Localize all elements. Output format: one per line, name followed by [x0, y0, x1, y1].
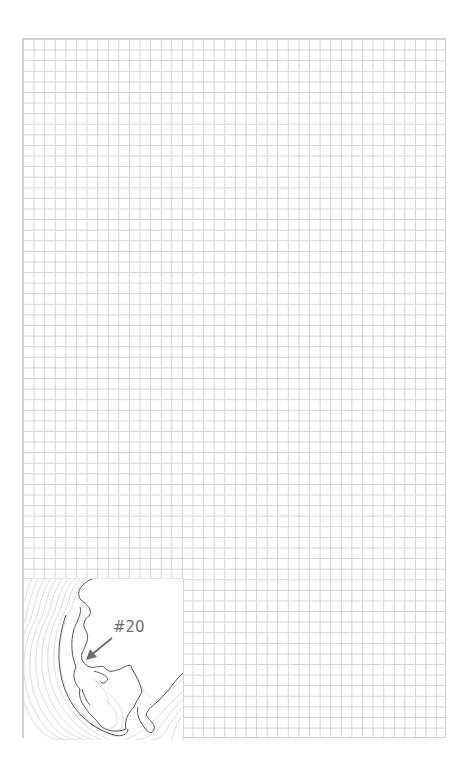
coastline-map — [24, 579, 183, 740]
depth-contours — [24, 579, 183, 740]
coastline — [59, 579, 183, 736]
map-inset: #20 — [24, 578, 184, 740]
site-marker-label: #20 — [113, 618, 145, 636]
location-arrow-icon — [86, 638, 112, 660]
